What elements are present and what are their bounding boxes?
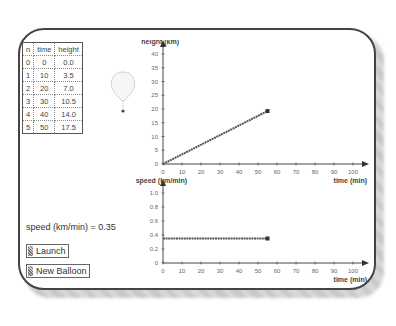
- table-row: 000.0: [23, 56, 83, 69]
- svg-text:5: 5: [155, 147, 159, 153]
- svg-text:speed (km/min): speed (km/min): [136, 177, 187, 185]
- cell: 20: [34, 82, 55, 95]
- cell: 3.5: [55, 69, 82, 82]
- launch-button[interactable]: Launch: [26, 244, 69, 258]
- svg-text:1.0: 1.0: [150, 190, 159, 196]
- svg-text:50: 50: [255, 268, 262, 274]
- svg-text:25: 25: [151, 92, 158, 98]
- cell: 1: [23, 69, 34, 82]
- svg-text:90: 90: [331, 268, 338, 274]
- svg-text:10: 10: [151, 134, 158, 140]
- svg-text:0: 0: [155, 260, 159, 266]
- cell: 4: [23, 108, 34, 121]
- svg-text:0.2: 0.2: [150, 246, 159, 252]
- svg-text:0.6: 0.6: [150, 218, 159, 224]
- svg-text:height (km): height (km): [141, 40, 179, 46]
- svg-text:time (min): time (min): [334, 276, 367, 284]
- svg-text:0: 0: [155, 161, 159, 167]
- svg-text:0: 0: [161, 268, 165, 274]
- cell: 10: [34, 69, 55, 82]
- cell: 50: [34, 121, 55, 134]
- svg-text:100: 100: [348, 268, 359, 274]
- cell: 2: [23, 82, 34, 95]
- svg-text:60: 60: [274, 268, 281, 274]
- cell: 5: [23, 121, 34, 134]
- speed-readout: speed (km/min) = 0.35: [26, 222, 116, 232]
- column-header-height: height: [55, 43, 82, 56]
- svg-text:20: 20: [151, 106, 158, 112]
- height-chart: 01020304050607080901000510152025303540he…: [105, 40, 390, 185]
- speed-chart: 010203040506070809010000.20.40.60.81.0sp…: [95, 175, 390, 285]
- svg-text:40: 40: [236, 268, 243, 274]
- cell: 3: [23, 95, 34, 108]
- column-header-time: time: [34, 43, 55, 56]
- cell: 0.0: [55, 56, 82, 69]
- table-row: 1103.5: [23, 69, 83, 82]
- svg-text:80: 80: [312, 268, 319, 274]
- cell: 7.0: [55, 82, 82, 95]
- cell: 10.5: [55, 95, 82, 108]
- table-row: 33010.5: [23, 95, 83, 108]
- table-row: 2207.0: [23, 82, 83, 95]
- svg-text:0.8: 0.8: [150, 204, 159, 210]
- svg-text:30: 30: [217, 268, 224, 274]
- svg-text:40: 40: [151, 51, 158, 57]
- table-header-row: n time height: [23, 43, 83, 56]
- data-table: n time height 000.0 1103.5 2207.0 33010.…: [22, 42, 83, 134]
- cell: 30: [34, 95, 55, 108]
- table-row: 55017.5: [23, 121, 83, 134]
- cell: 14.0: [55, 108, 82, 121]
- table-row: 44014.0: [23, 108, 83, 121]
- svg-text:70: 70: [293, 268, 300, 274]
- svg-text:20: 20: [198, 268, 205, 274]
- new-balloon-button[interactable]: New Balloon: [26, 264, 90, 278]
- svg-text:15: 15: [151, 120, 158, 126]
- cell: 17.5: [55, 121, 82, 134]
- cell: 0: [34, 56, 55, 69]
- svg-text:35: 35: [151, 65, 158, 71]
- svg-text:30: 30: [151, 79, 158, 85]
- cell: 0: [23, 56, 34, 69]
- column-header-n: n: [23, 43, 34, 56]
- svg-text:10: 10: [179, 268, 186, 274]
- svg-text:0.4: 0.4: [150, 232, 159, 238]
- cell: 40: [34, 108, 55, 121]
